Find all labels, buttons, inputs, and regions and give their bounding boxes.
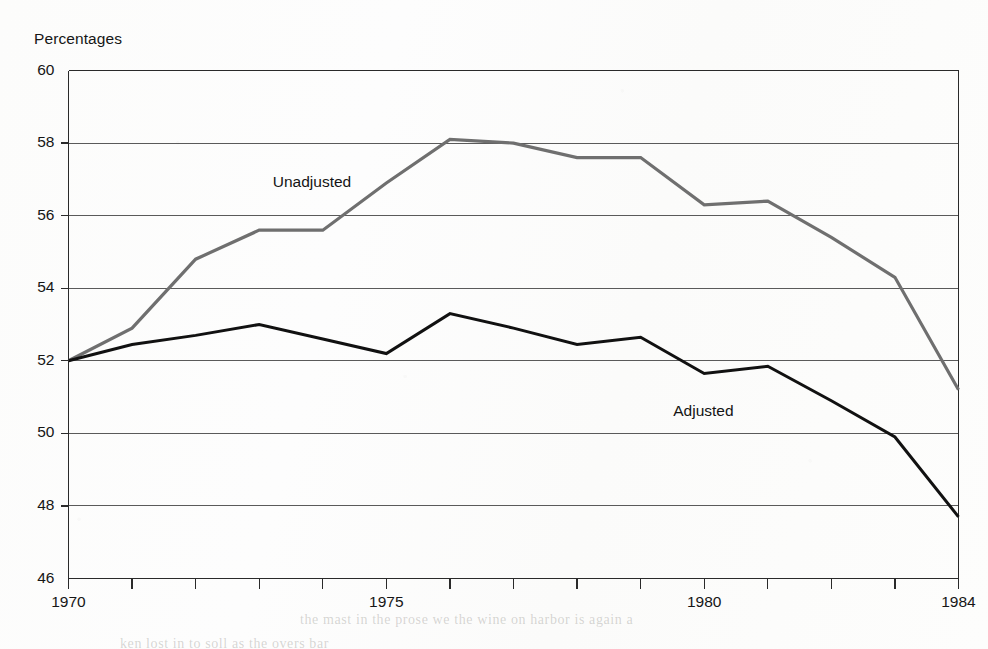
x-tick-label-1980: 1980 — [674, 593, 734, 611]
series-label-adjusted: Adjusted — [673, 402, 733, 420]
x-axis-ticks — [69, 579, 959, 589]
y-tick-label-54: 54 — [21, 278, 55, 296]
y-tick-label-46: 46 — [21, 569, 55, 587]
x-tick-label-1975: 1975 — [356, 593, 416, 611]
series-label-unadjusted: Unadjusted — [273, 173, 351, 191]
y-tick-label-60: 60 — [21, 61, 55, 79]
x-tick-label-1970: 1970 — [39, 593, 99, 611]
y-tick-label-50: 50 — [21, 423, 55, 441]
gridlines — [61, 143, 959, 506]
y-tick-label-52: 52 — [21, 351, 55, 369]
plot-area — [0, 0, 988, 649]
y-tick-label-56: 56 — [21, 206, 55, 224]
plot-frame — [69, 71, 959, 579]
x-tick-label-1984: 1984 — [929, 593, 988, 611]
y-tick-label-48: 48 — [21, 496, 55, 514]
series-lines — [69, 139, 959, 516]
line-chart: Percentages 4648505254565860 19701975198… — [0, 0, 988, 649]
y-tick-label-58: 58 — [21, 133, 55, 151]
